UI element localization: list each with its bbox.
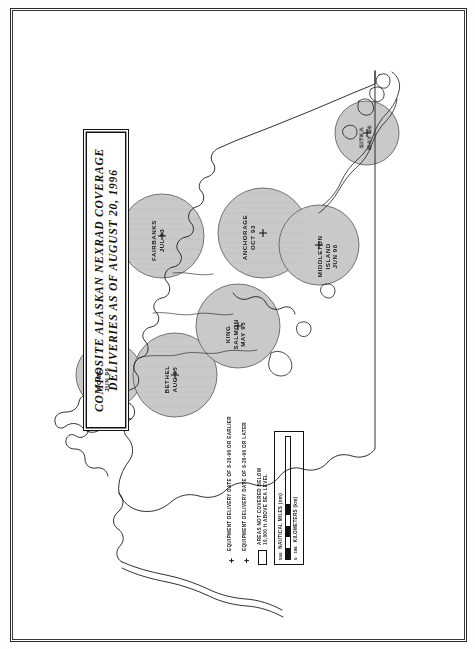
scale-nautical-label: NAUTICAL MILES (nm) xyxy=(278,493,283,549)
scale-nautical-end: 500 xyxy=(278,553,283,560)
cross-marker-icon: + xyxy=(227,556,237,565)
scale-kilometers-start: 0 xyxy=(293,558,298,560)
station-name-middleton-l1: MIDDLETON xyxy=(316,224,324,288)
station-label-king-salmon: KING SALMON MAY 95 xyxy=(224,303,247,365)
legend-text-not-covered-l2: 10,000 ft ABOVE SEA LEVEL xyxy=(263,468,269,545)
station-label-bethel: BETHEL AUG 95 xyxy=(163,352,178,408)
station-name-bethel: BETHEL xyxy=(163,352,171,408)
station-date-bethel: AUG 95 xyxy=(171,352,179,408)
station-name-fairbanks: FAIRBANKS xyxy=(150,210,158,272)
station-label-nome: NOME JUN 96 xyxy=(95,354,110,406)
legend-item-earlier: + EQUIPMENT DELIVERY DATE OF 8-20-96 OR … xyxy=(227,389,237,565)
station-name-anchorage: ANCHORAGE xyxy=(241,204,249,272)
screenshot-root: COMPOSITE ALASKAN NEXRAD COVERAGE DELIVE… xyxy=(0,0,475,649)
scale-bar-box: 500 NAUTICAL MILES (nm) 0 186 KILOMETERS… xyxy=(274,431,304,565)
map-legend: + EQUIPMENT DELIVERY DATE OF 8-20-96 OR … xyxy=(227,389,335,565)
station-label-sitka: SITKA MAY 96 xyxy=(357,114,372,162)
station-date-nome: JUN 96 xyxy=(103,354,111,406)
legend-text-later: EQUIPMENT DELIVERY DATE OF 8-20-96 OR LA… xyxy=(242,422,248,551)
station-label-middleton: MIDDLETON ISLAND JUN 96 xyxy=(316,224,339,288)
map-canvas: COMPOSITE ALASKAN NEXRAD COVERAGE DELIVE… xyxy=(23,23,454,643)
station-name-nome: NOME xyxy=(95,354,103,406)
legend-text-earlier: EQUIPMENT DELIVERY DATE OF 8-20-96 OR EA… xyxy=(227,416,233,551)
legend-item-later: + EQUIPMENT DELIVERY DATE OF 8-20-96 OR … xyxy=(242,389,252,565)
station-date-fairbanks: JUL 93 xyxy=(158,210,166,272)
scale-nautical-row: 500 NAUTICAL MILES (nm) xyxy=(278,436,283,560)
scale-bar-graphic xyxy=(285,436,291,560)
station-date-middleton: JUN 96 xyxy=(331,224,339,288)
station-label-anchorage: ANCHORAGE OCT 93 xyxy=(241,204,256,272)
scale-kilometers-end: 186 xyxy=(293,546,298,553)
station-date-king-salmon: MAY 95 xyxy=(239,303,247,365)
station-label-fairbanks: FAIRBANKS JUL 93 xyxy=(150,210,165,272)
page-border: COMPOSITE ALASKAN NEXRAD COVERAGE DELIVE… xyxy=(10,8,467,642)
station-name-middleton-l2: ISLAND xyxy=(323,224,331,288)
station-name-king-salmon-l2: SALMON xyxy=(231,303,239,365)
station-date-sitka: MAY 96 xyxy=(365,114,373,162)
legend-text-not-covered-group: AREAS NOT COVERED BELOW 10,000 ft ABOVE … xyxy=(257,468,269,545)
scale-kilometers-row: 0 186 KILOMETERS (km) xyxy=(293,436,298,560)
cross-marker-icon-2: + xyxy=(242,556,252,565)
station-name-sitka: SITKA xyxy=(357,114,365,162)
station-name-king-salmon-l1: KING xyxy=(224,303,232,365)
white-swatch-icon xyxy=(258,550,267,565)
station-date-anchorage: OCT 93 xyxy=(249,204,257,272)
scale-kilometers-label: KILOMETERS (km) xyxy=(293,497,298,543)
legend-item-not-covered: AREAS NOT COVERED BELOW 10,000 ft ABOVE … xyxy=(257,389,269,565)
